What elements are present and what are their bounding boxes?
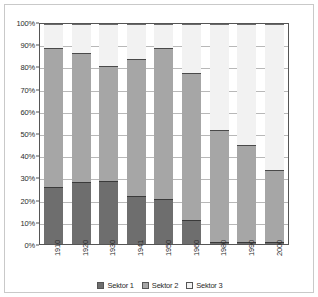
bar-segment-sektor-1[interactable] xyxy=(127,196,146,244)
bar-segment-sektor-2[interactable] xyxy=(182,73,201,219)
legend-label: Sektor 2 xyxy=(152,281,178,290)
y-tick-label: 80% xyxy=(21,63,35,72)
y-tick-label: 100% xyxy=(17,19,35,28)
chart-frame: 100%90%80%70%60%50%40%30%20%10%0% 191019… xyxy=(4,4,314,293)
bar-column[interactable] xyxy=(210,24,229,244)
legend-swatch-icon xyxy=(97,282,104,289)
bar-segment-sektor-2[interactable] xyxy=(44,48,63,187)
legend-label: Sektor 1 xyxy=(107,281,133,290)
stacked-bar-series xyxy=(40,24,288,244)
bar-segment-sektor-2[interactable] xyxy=(210,130,229,242)
bar-segment-sektor-1[interactable] xyxy=(72,182,91,244)
x-tick-column: 1910 xyxy=(43,246,62,278)
bar-segment-sektor-1[interactable] xyxy=(99,181,118,244)
y-tick-label: 40% xyxy=(21,152,35,161)
x-tick-column: 1980 xyxy=(210,246,229,278)
bar-segment-sektor-3[interactable] xyxy=(182,24,201,74)
x-axis: 191019201930194119501960198019902000 xyxy=(39,246,289,278)
y-tick-label: 60% xyxy=(21,107,35,116)
legend-label: Sektor 3 xyxy=(196,281,222,290)
bar-segment-sektor-3[interactable] xyxy=(44,24,63,48)
bar-segment-sektor-2[interactable] xyxy=(99,66,118,182)
y-axis: 100%90%80%70%60%50%40%30%20%10%0% xyxy=(5,23,39,245)
legend-swatch-icon xyxy=(142,282,149,289)
x-tick-label: 1920 xyxy=(81,240,90,256)
y-tick-label: 70% xyxy=(21,85,35,94)
x-tick-label: 1990 xyxy=(247,240,256,256)
legend-swatch-icon xyxy=(186,282,193,289)
bar-segment-sektor-3[interactable] xyxy=(127,24,146,59)
bar-column[interactable] xyxy=(182,24,201,244)
y-tick-label: 50% xyxy=(21,130,35,139)
bar-segment-sektor-2[interactable] xyxy=(72,53,91,183)
bar-segment-sektor-3[interactable] xyxy=(72,24,91,53)
bar-column[interactable] xyxy=(265,24,284,244)
x-tick-column: 1930 xyxy=(99,246,118,278)
x-tick-column: 2000 xyxy=(266,246,285,278)
bar-segment-sektor-3[interactable] xyxy=(265,24,284,170)
plot-area xyxy=(39,23,289,245)
x-tick-column: 1960 xyxy=(182,246,201,278)
bar-segment-sektor-3[interactable] xyxy=(154,24,173,48)
x-tick-column: 1990 xyxy=(238,246,257,278)
bar-column[interactable] xyxy=(237,24,256,244)
bar-column[interactable] xyxy=(99,24,118,244)
legend-item[interactable]: Sektor 3 xyxy=(186,281,222,290)
bar-segment-sektor-1[interactable] xyxy=(44,187,63,244)
x-tick-label: 1950 xyxy=(164,240,173,256)
x-tick-label: 1980 xyxy=(219,240,228,256)
legend-item[interactable]: Sektor 1 xyxy=(97,281,133,290)
x-tick-label: 1960 xyxy=(192,240,201,256)
legend-item[interactable]: Sektor 2 xyxy=(142,281,178,290)
bar-column[interactable] xyxy=(72,24,91,244)
x-tick-column: 1920 xyxy=(71,246,90,278)
bar-segment-sektor-2[interactable] xyxy=(154,48,173,199)
x-tick-label: 1941 xyxy=(136,240,145,256)
bar-column[interactable] xyxy=(127,24,146,244)
y-tick-label: 0% xyxy=(25,241,35,250)
bar-segment-sektor-2[interactable] xyxy=(127,59,146,195)
bar-segment-sektor-2[interactable] xyxy=(265,170,284,242)
y-tick-label: 90% xyxy=(21,41,35,50)
bar-column[interactable] xyxy=(44,24,63,244)
y-tick-label: 20% xyxy=(21,196,35,205)
x-tick-column: 1941 xyxy=(127,246,146,278)
bar-segment-sektor-3[interactable] xyxy=(210,24,229,130)
bar-segment-sektor-3[interactable] xyxy=(99,24,118,66)
bar-column[interactable] xyxy=(154,24,173,244)
x-tick-column: 1950 xyxy=(154,246,173,278)
bar-segment-sektor-3[interactable] xyxy=(237,24,256,145)
y-tick-label: 30% xyxy=(21,174,35,183)
x-tick-label: 1910 xyxy=(53,240,62,256)
chart-legend: Sektor 1Sektor 2Sektor 3 xyxy=(5,281,315,290)
x-tick-label: 2000 xyxy=(275,240,284,256)
bar-segment-sektor-1[interactable] xyxy=(154,199,173,244)
bar-segment-sektor-2[interactable] xyxy=(237,145,256,242)
y-tick-label: 10% xyxy=(21,218,35,227)
x-tick-label: 1930 xyxy=(108,240,117,256)
